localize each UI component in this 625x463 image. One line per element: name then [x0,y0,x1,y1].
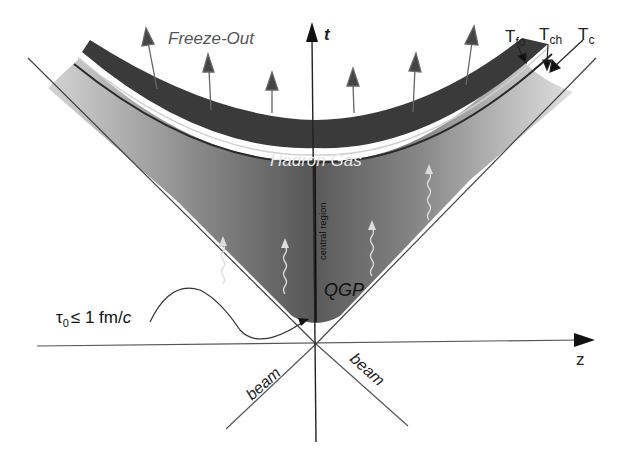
t-fo-label: Tfo [505,27,526,49]
beam-left-label: beam [243,364,284,403]
freeze-out-label: Freeze-Out [168,29,255,48]
spacetime-diagram: Freeze-Out t z Hadron Gas QGP central re… [0,0,625,463]
z-axis [37,340,580,346]
t-axis-arrowhead [306,22,318,42]
z-axis-arrowhead [574,333,595,347]
beam-right-label: beam [347,350,388,389]
qgp-region [48,58,573,323]
central-region-line [315,162,316,322]
t-ch-label: Tch [539,25,562,47]
space-axis-label: z [576,350,585,369]
t-c-label: Tc [578,25,594,47]
qgp-label: QGP [324,280,364,300]
central-region-label: central region [317,202,328,260]
time-axis-label: t [324,25,331,44]
formation-time-label: τ0≤ 1 fm/c [56,308,132,329]
hadron-gas-label: Hadron Gas [270,151,362,170]
